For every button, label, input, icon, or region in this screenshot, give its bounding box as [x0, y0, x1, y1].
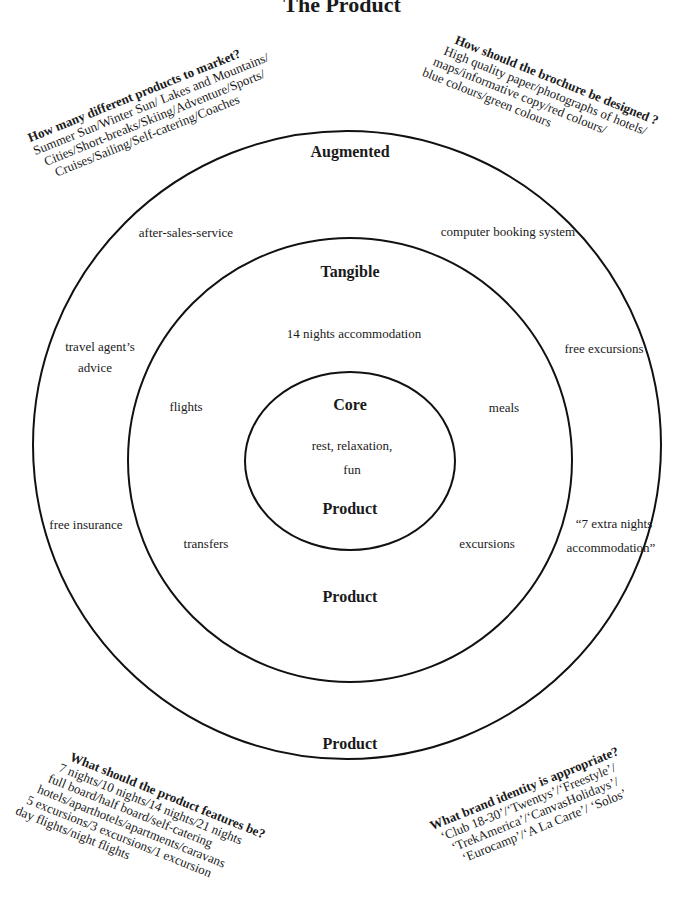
excursions-item: excursions [459, 537, 515, 550]
free-excursions: free excursions [564, 342, 643, 355]
core-text-line1: rest, relaxation, [312, 439, 393, 452]
core-label: Core [333, 397, 366, 413]
extra-nights-line1: “7 extra nights [576, 517, 653, 530]
tangible-product-label: Product [323, 589, 378, 605]
computer-booking-system: computer booking system [441, 225, 575, 238]
travel-agent-advice-line1: travel agent’s [65, 340, 135, 353]
travel-agent-advice-line2: advice [78, 361, 112, 374]
tangible-ring [128, 238, 572, 682]
core-text-line2: fun [343, 463, 360, 476]
augmented-label: Augmented [310, 144, 389, 160]
after-sales-service: after-sales-service [139, 226, 233, 239]
core-product-label: Product [323, 501, 378, 517]
flights-item: flights [169, 400, 202, 413]
transfers-item: transfers [184, 537, 229, 550]
tangible-label: Tangible [321, 264, 380, 280]
augmented-product-label: Product [323, 736, 378, 752]
free-insurance: free insurance [49, 518, 122, 531]
meals-item: meals [489, 401, 519, 414]
accommodation-item: 14 nights accommodation [287, 327, 421, 340]
extra-nights-line2: accommodation” [567, 541, 656, 554]
